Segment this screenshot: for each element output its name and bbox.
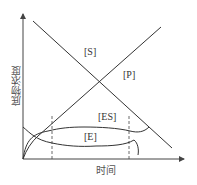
x-axis-label: 时间: [96, 162, 116, 177]
free-enzyme-label: [E]: [84, 131, 97, 142]
substrate-label: [S]: [84, 46, 96, 57]
substrate-curve: [33, 21, 172, 148]
product-label: [P]: [123, 69, 135, 80]
enzyme-substrate-label: [ES]: [98, 111, 116, 122]
y-axis-label: 底物浓度: [9, 66, 23, 106]
free-enzyme-curve: [23, 127, 138, 155]
enzyme-kinetics-diagram: [0, 0, 197, 185]
